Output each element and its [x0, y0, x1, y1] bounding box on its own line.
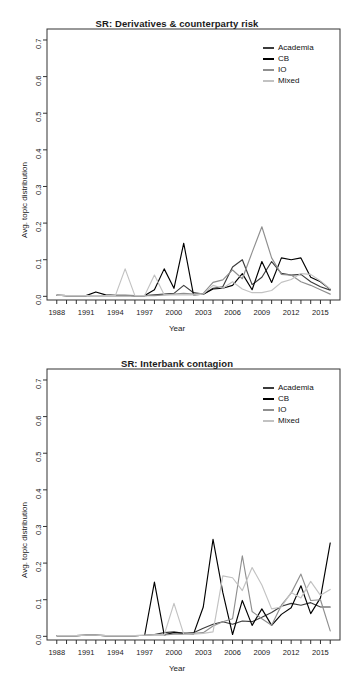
y-tick-label: 0.2: [34, 222, 43, 232]
y-tick-label: 0.4: [34, 488, 43, 498]
legend-item-academia[interactable]: Academia: [263, 42, 314, 53]
y-tick-label: 0.3: [34, 185, 43, 195]
legend-label: Mixed: [278, 415, 299, 426]
legend-label: IO: [278, 404, 286, 415]
series-line-cb: [57, 243, 330, 295]
x-axis-label: Year: [0, 664, 354, 673]
legend-label: Academia: [278, 42, 314, 53]
legend-label: Mixed: [278, 75, 299, 86]
y-tick-label: 0.7: [34, 379, 43, 389]
legend-swatch-icon: [263, 69, 274, 71]
y-tick-label: 0.5: [34, 452, 43, 462]
y-axis-label: Avg. topic distribution: [20, 162, 29, 238]
y-tick-label: 0.0: [34, 635, 43, 645]
chart-panel-interbank: SR: Interbank contagion Year Avg. topic …: [0, 340, 354, 680]
legend-swatch-icon: [263, 387, 274, 389]
chart-legend: AcademiaCBIOMixed: [263, 382, 314, 426]
y-tick-label: 0.5: [34, 112, 43, 122]
y-tick-label: 0.3: [34, 525, 43, 535]
x-axis-label: Year: [0, 324, 354, 333]
legend-swatch-icon: [263, 398, 274, 400]
legend-item-io[interactable]: IO: [263, 404, 314, 415]
chart-legend: AcademiaCBIOMixed: [263, 42, 314, 86]
y-axis-label: Avg. topic distribution: [20, 502, 29, 578]
series-line-mixed: [57, 567, 330, 635]
y-tick-label: 0.1: [34, 258, 43, 268]
series-line-mixed: [57, 269, 330, 296]
legend-swatch-icon: [263, 47, 274, 49]
y-tick-label: 0.4: [34, 148, 43, 158]
series-line-academia: [57, 260, 330, 296]
x-tick-label: 2015: [303, 648, 337, 657]
y-tick-label: 0.6: [34, 415, 43, 425]
legend-item-cb[interactable]: CB: [263, 53, 314, 64]
y-tick-label: 0.2: [34, 562, 43, 572]
legend-swatch-icon: [263, 58, 274, 60]
series-line-cb: [57, 539, 330, 635]
legend-item-academia[interactable]: Academia: [263, 382, 314, 393]
y-tick-label: 0.6: [34, 75, 43, 85]
legend-label: Academia: [278, 382, 314, 393]
legend-swatch-icon: [263, 420, 274, 422]
legend-item-mixed[interactable]: Mixed: [263, 75, 314, 86]
legend-swatch-icon: [263, 80, 274, 82]
y-tick-label: 0.1: [34, 598, 43, 608]
legend-label: IO: [278, 64, 286, 75]
legend-item-io[interactable]: IO: [263, 64, 314, 75]
legend-item-mixed[interactable]: Mixed: [263, 415, 314, 426]
legend-label: CB: [278, 393, 289, 404]
x-tick-label: 2015: [303, 308, 337, 317]
series-line-io: [57, 227, 330, 296]
y-tick-label: 0.0: [34, 295, 43, 305]
legend-swatch-icon: [263, 409, 274, 411]
legend-label: CB: [278, 53, 289, 64]
y-tick-label: 0.7: [34, 39, 43, 49]
series-line-academia: [57, 603, 330, 636]
legend-item-cb[interactable]: CB: [263, 393, 314, 404]
chart-panel-derivatives: SR: Derivatives & counterparty risk Year…: [0, 0, 354, 340]
